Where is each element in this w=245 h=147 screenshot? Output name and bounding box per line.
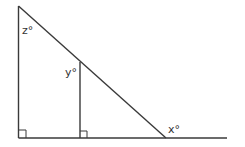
right-angle-marker-inner [80,131,87,138]
right-angle-marker-left [19,130,27,138]
label-z-angle: z° [22,24,33,37]
hypotenuse [19,6,167,138]
label-x-angle: x° [168,123,180,136]
geometry-diagram: z° y° x° [0,0,245,147]
label-y-angle: y° [65,66,77,79]
